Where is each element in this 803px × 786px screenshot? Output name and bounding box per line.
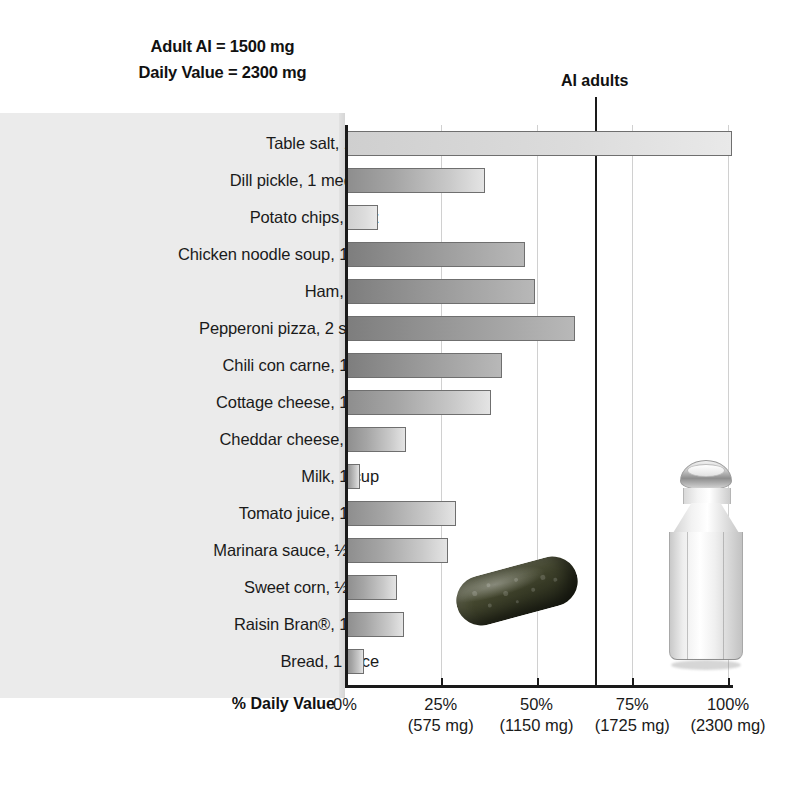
category-label: Sweet corn, ½ cup: [49, 569, 379, 606]
pickle-bump: [540, 574, 546, 580]
bar: [345, 353, 502, 378]
x-tick-percent: 100%: [668, 695, 788, 714]
category-label: Cheddar cheese, 2 oz: [49, 421, 379, 458]
category-label: Chili con carne, 1 cup: [49, 347, 379, 384]
bar: [345, 538, 448, 563]
bar: [345, 131, 732, 156]
category-label: Marinara sauce, ½ cup: [49, 532, 379, 569]
chart-row: Dill pickle, 1 medium: [345, 162, 728, 199]
category-label: Tomato juice, 1 cup: [49, 495, 379, 532]
pickle-bump: [503, 590, 509, 596]
chart-row: Cottage cheese, 1 cup: [345, 384, 728, 421]
y-axis-line: [345, 125, 348, 688]
salt-shaker-photo: [663, 460, 749, 672]
category-label: Table salt, 1 tsp: [49, 125, 379, 162]
pickle-bump: [487, 603, 492, 608]
category-label: Potato chips, 1 oz: [49, 199, 379, 236]
category-label: Raisin Bran®, 1 cup: [49, 606, 379, 643]
pickle-bump: [514, 577, 519, 582]
bar: [345, 242, 525, 267]
x-tick-label-100: 100%(2300 mg): [668, 695, 788, 735]
chart-row: Chicken noodle soup, 1 cup: [345, 236, 728, 273]
category-label: Ham, 3 oz: [49, 273, 379, 310]
chart-row: Potato chips, 1 oz: [345, 199, 728, 236]
category-label: Cottage cheese, 1 cup: [49, 384, 379, 421]
x-tick-milligrams: (2300 mg): [668, 716, 788, 735]
bar: [345, 316, 575, 341]
header-note: Adult AI = 1500 mg Daily Value = 2300 mg: [90, 33, 355, 85]
chart-row: Pepperoni pizza, 2 slices: [345, 310, 728, 347]
shaker-body: [669, 532, 743, 660]
shaker-facet-right: [723, 532, 724, 660]
bar: [345, 575, 397, 600]
ai-adults-annotation: AI adults: [530, 72, 660, 90]
bar: [345, 612, 404, 637]
pickle-bump: [553, 577, 558, 582]
bar: [345, 427, 406, 452]
bar: [345, 205, 378, 230]
category-label: Bread, 1 slice: [49, 643, 379, 680]
x-axis-line: [345, 685, 733, 688]
bar: [345, 279, 535, 304]
pickle-bump: [472, 590, 478, 596]
category-label: Chicken noodle soup, 1 cup: [49, 236, 379, 273]
shaker-base-shadow: [671, 660, 741, 670]
bar: [345, 390, 491, 415]
bar: [345, 501, 456, 526]
category-label: Pepperoni pizza, 2 slices: [49, 310, 379, 347]
dill-pickle-photo: [447, 552, 587, 630]
adult-ai-text: Adult AI = 1500 mg: [90, 33, 355, 59]
chart-row: Ham, 3 oz: [345, 273, 728, 310]
chart-row: Cheddar cheese, 2 oz: [345, 421, 728, 458]
pickle-bump: [531, 587, 536, 592]
chart-row: Table salt, 1 tsp: [345, 125, 728, 162]
bar: [345, 168, 485, 193]
pickle-body: [451, 551, 584, 631]
shaker-cap-top: [687, 464, 725, 477]
chart-row: Chili con carne, 1 cup: [345, 347, 728, 384]
pickle-bump: [515, 600, 519, 604]
shaker-neck: [683, 488, 731, 504]
shaker-shoulder: [673, 503, 739, 533]
category-label: Milk, 1 cup: [49, 458, 379, 495]
category-label: Dill pickle, 1 medium: [49, 162, 379, 199]
shaker-facet-left: [687, 532, 688, 660]
pickle-bump: [486, 583, 491, 588]
daily-value-text: Daily Value = 2300 mg: [90, 59, 355, 85]
sodium-chart-figure: Adult AI = 1500 mg Daily Value = 2300 mg…: [0, 0, 803, 786]
